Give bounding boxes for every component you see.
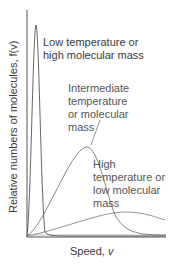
annotation-low-2: high molecular mass bbox=[43, 49, 144, 61]
annotation-high-2: temperature or bbox=[93, 171, 165, 183]
annotation-mid-1: Intermediate bbox=[68, 82, 129, 94]
annotation-low-1: Low temperature or bbox=[43, 36, 138, 48]
annotation-high-4: mass bbox=[93, 197, 119, 209]
curve-high-temp bbox=[27, 212, 165, 236]
annotation-high-1: High bbox=[93, 158, 116, 170]
y-axis-label: Relative numbers of molecules, f(v) bbox=[7, 43, 19, 213]
annotation-mid-3: or molecular bbox=[68, 108, 129, 120]
annotation-high-3: low molecular bbox=[93, 184, 160, 196]
annotation-mid-4: mass bbox=[68, 121, 94, 133]
x-axis-label: Speed, v bbox=[70, 245, 113, 257]
annotation-mid-2: temperature bbox=[68, 95, 127, 107]
